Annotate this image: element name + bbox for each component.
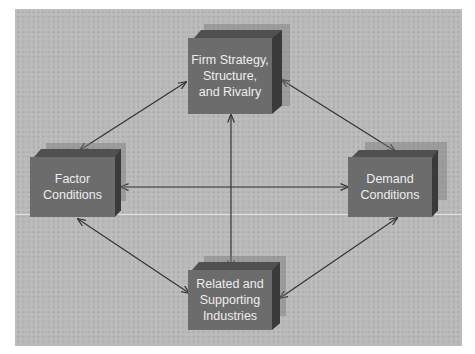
node-label-line: Supporting bbox=[196, 292, 263, 308]
node-label-line: Conditions bbox=[43, 187, 102, 203]
arrow-top-left bbox=[80, 82, 186, 150]
node-label-line: and Rivalry bbox=[191, 84, 269, 100]
arrow-left-bottom bbox=[78, 219, 189, 293]
node-label-line: Conditions bbox=[360, 187, 419, 203]
arrow-right-bottom bbox=[280, 218, 397, 298]
node-label-line: Structure, bbox=[191, 68, 269, 84]
node-label-line: Factor bbox=[43, 171, 102, 187]
node-label-line: Firm Strategy, bbox=[191, 52, 269, 68]
arrow-top-right bbox=[282, 80, 395, 151]
node-label-line: Demand bbox=[360, 171, 419, 187]
node-label-line: Industries bbox=[196, 308, 263, 324]
node-label-line: Related and bbox=[196, 276, 263, 292]
